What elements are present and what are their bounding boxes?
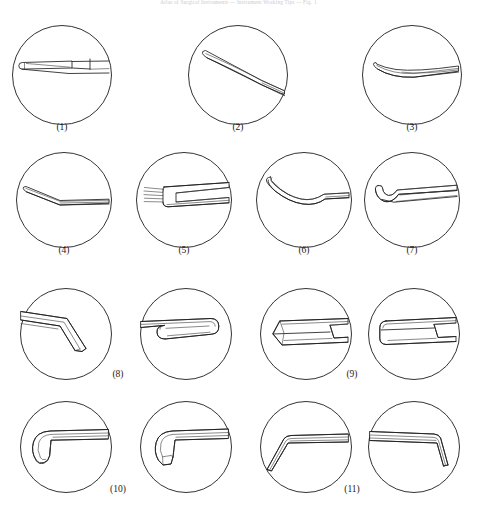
instrument-tip-hooked-recurved — [375, 185, 457, 202]
instrument-tip-curved-down-rounded-rasp — [33, 430, 108, 464]
figure-panel-10b — [140, 401, 232, 493]
figure-plate: Atlas of Surgical Instruments — Instrume… — [0, 0, 477, 521]
figure-label-5: (5) — [154, 245, 214, 256]
panel-circle — [189, 26, 288, 125]
figure-panel-8b — [140, 288, 232, 380]
instrument-tip-bayonet-angled-chisel — [21, 312, 86, 352]
figure-panel-2 — [188, 25, 288, 125]
instrument-tip-long-curved-tapered-blade — [202, 51, 284, 96]
panel-circle — [141, 402, 232, 493]
instrument-tip-flat-blade-elevator — [19, 59, 109, 74]
instrument-tip-curved-down-angled-rasp — [155, 429, 228, 465]
figure-panel-9b — [368, 288, 460, 380]
figure-panel-3 — [362, 25, 462, 125]
panel-circle — [261, 402, 352, 493]
instrument-tip-multi-prong-rake — [144, 183, 229, 207]
figure-panel-7 — [364, 152, 460, 248]
figure-panel-4 — [16, 152, 112, 248]
figure-label-9: (9) — [322, 369, 382, 380]
instrument-tip-slender-upcurved-blade — [373, 63, 458, 78]
figure-panel-10a — [20, 401, 112, 493]
instrument-tip-left-bent-flat-blade — [267, 434, 348, 471]
figure-label-2: (2) — [208, 122, 268, 133]
figure-label-8: (8) — [88, 369, 148, 380]
instrument-tip-beveled-flat-osteotome — [273, 319, 348, 346]
figure-panel-1 — [12, 25, 112, 125]
figure-panel-11b — [368, 401, 460, 493]
figure-panel-8a — [20, 288, 112, 380]
panel-circle — [13, 26, 112, 125]
instrument-tip-rounded-end-gouge — [141, 319, 219, 340]
figure-panel-11a — [260, 401, 352, 493]
figure-panel-9a — [260, 288, 352, 380]
plate-running-header: Atlas of Surgical Instruments — Instrume… — [0, 0, 477, 6]
figure-panel-5 — [136, 152, 232, 248]
figure-label-4: (4) — [34, 245, 94, 256]
figure-label-3: (3) — [382, 122, 442, 133]
instrument-tip-s-curved-spoon-elevator — [266, 177, 349, 204]
figure-label-11: (11) — [322, 484, 382, 495]
figure-label-6: (6) — [274, 245, 334, 256]
instrument-tip-angled-bent-blade — [23, 187, 109, 206]
figure-label-7: (7) — [382, 245, 442, 256]
figure-panel-6 — [256, 152, 352, 248]
instrument-tip-right-bent-pointed-blade — [370, 432, 448, 467]
panel-circle — [369, 402, 460, 493]
figure-label-10: (10) — [88, 484, 148, 495]
figure-label-1: (1) — [32, 122, 92, 133]
instrument-tip-round-nose-osteotome — [380, 318, 456, 345]
